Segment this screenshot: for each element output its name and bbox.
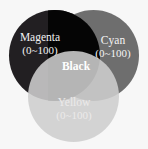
venn-label-magenta-name: Magenta bbox=[8, 31, 72, 44]
venn-label-yellow-name: Yellow bbox=[43, 96, 105, 109]
venn-label-cyan: Cyan (0~100) bbox=[83, 34, 143, 59]
venn-label-black: Black bbox=[55, 60, 97, 73]
venn-label-magenta: Magenta (0~100) bbox=[8, 31, 72, 56]
venn-label-yellow-range: (0~100) bbox=[43, 109, 105, 121]
venn-diagram: Magenta (0~100) Cyan (0~100) Black Yello… bbox=[0, 0, 148, 149]
venn-label-yellow: Yellow (0~100) bbox=[43, 96, 105, 121]
venn-label-black-name: Black bbox=[55, 60, 97, 73]
venn-label-cyan-range: (0~100) bbox=[83, 47, 143, 59]
venn-label-magenta-range: (0~100) bbox=[8, 44, 72, 56]
venn-label-cyan-name: Cyan bbox=[83, 34, 143, 47]
